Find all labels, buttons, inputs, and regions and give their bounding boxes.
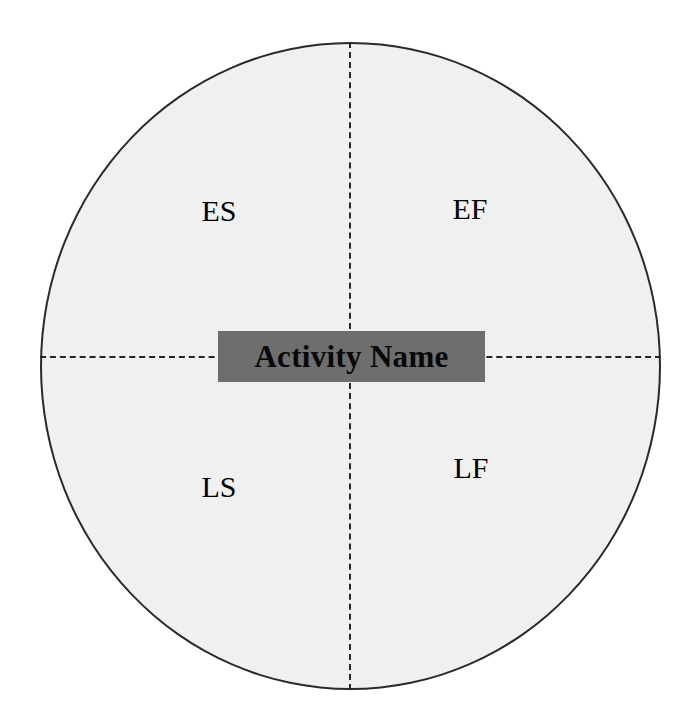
activity-name-text: Activity Name [254, 339, 448, 375]
quadrant-label-es: ES [201, 196, 236, 226]
activity-name-box: Activity Name [218, 331, 485, 382]
quadrant-label-lf: LF [453, 453, 488, 483]
diagram-canvas: ES EF LS LF Activity Name [0, 0, 692, 726]
quadrant-label-ls: LS [201, 472, 236, 502]
quadrant-label-ef: EF [452, 194, 487, 224]
